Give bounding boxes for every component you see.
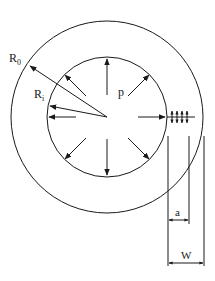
dimension-extension-lines: [168, 136, 204, 266]
wall-thickness-label: W: [181, 249, 192, 261]
outer-radius-label: R0: [9, 51, 21, 67]
pressure-label: p: [118, 85, 124, 99]
crack: [167, 111, 195, 123]
inner-radius-label: Ri: [34, 87, 45, 103]
crack-length-label: a: [175, 206, 180, 218]
cylinder-crack-diagram: a W R0 Ri p: [0, 0, 215, 281]
